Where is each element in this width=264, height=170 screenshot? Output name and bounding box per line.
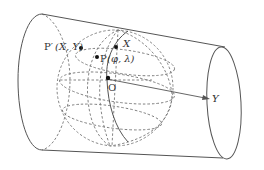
label-p-prime: P′	[44, 41, 54, 52]
cylinder-projection-diagram: P′ (X, Y) P (φ, λ) X O Y	[0, 0, 264, 170]
cylinder-left-end	[18, 14, 42, 150]
point-x	[114, 45, 118, 49]
label-p-coords: (φ, λ)	[107, 53, 135, 64]
label-y-axis: Y	[212, 93, 220, 104]
y-axis-line	[107, 79, 205, 98]
y-axis-arrowhead	[202, 95, 210, 100]
label-x-axis: X	[122, 38, 131, 49]
label-origin: O	[108, 82, 116, 93]
cylinder-right-end	[204, 46, 244, 160]
label-p: P	[100, 53, 107, 64]
cylinder-bottom-edge	[42, 150, 223, 158]
cylinder-left-end-hidden	[42, 14, 70, 150]
label-p-prime-coords: (X, Y)	[55, 41, 83, 52]
point-p	[95, 55, 99, 59]
point-origin	[106, 76, 110, 80]
sphere-latitude-lower	[61, 99, 163, 135]
sphere-meridian-back	[110, 30, 172, 146]
